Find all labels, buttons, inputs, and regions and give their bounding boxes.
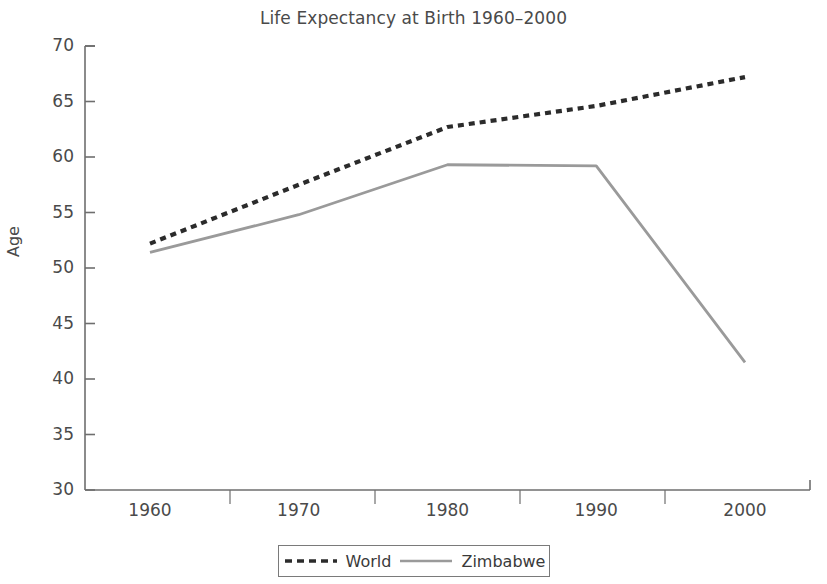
legend-label-zimbabwe: Zimbabwe (461, 552, 545, 571)
plot-area (0, 0, 827, 584)
chart-legend: World Zimbabwe (278, 545, 550, 577)
y-axis-ticks (85, 46, 95, 490)
data-series-lines (150, 77, 745, 362)
dashed-line-swatch (283, 555, 339, 567)
legend-item-world: World (283, 552, 392, 571)
axis-lines (85, 46, 810, 490)
legend-item-zimbabwe: Zimbabwe (398, 552, 545, 571)
legend-label-world: World (346, 552, 392, 571)
series-line-zimbabwe (150, 165, 745, 363)
chart-container: Life Expectancy at Birth 1960–2000 Age 3… (0, 0, 827, 584)
series-line-world (150, 77, 745, 244)
solid-line-swatch (398, 555, 454, 567)
x-axis-ticks (230, 490, 665, 504)
